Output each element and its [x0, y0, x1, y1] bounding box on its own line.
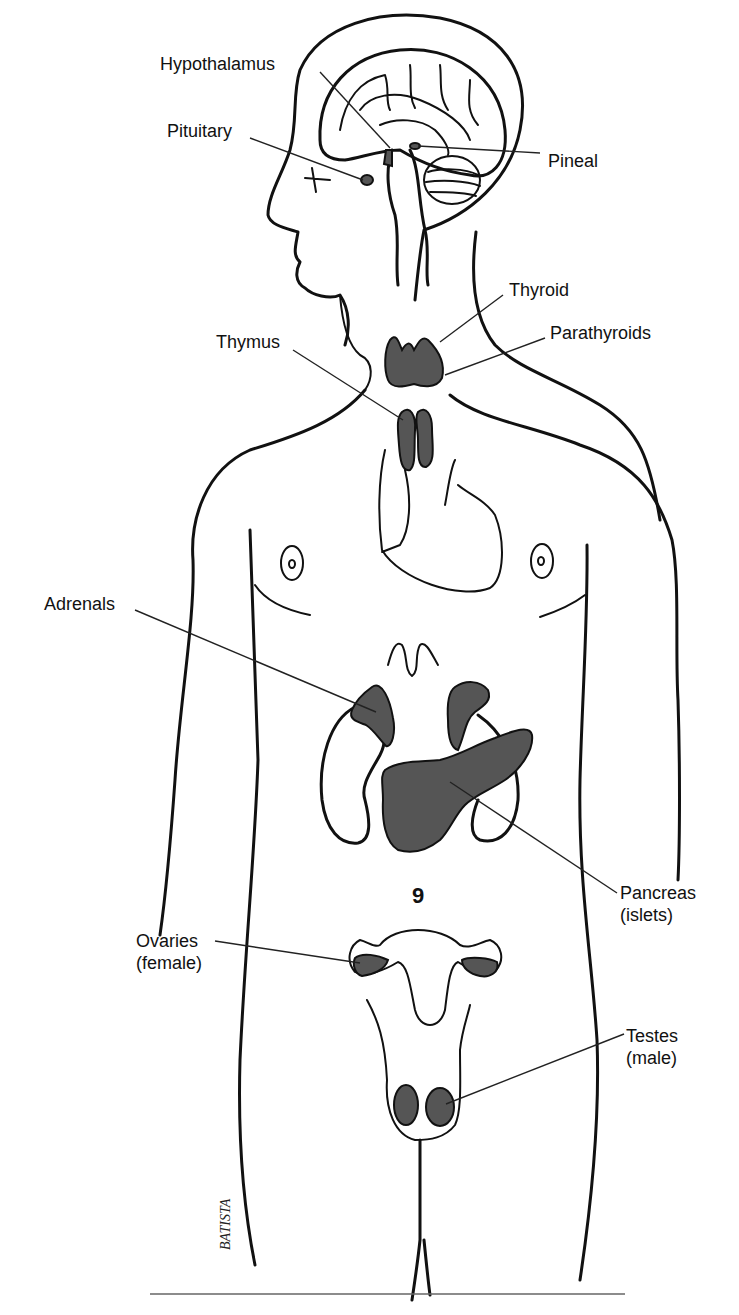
chest-left — [255, 585, 310, 615]
label-ovaries: Ovaries (female) — [136, 930, 202, 974]
leg-divide — [412, 1140, 430, 1300]
inner-right-side — [580, 545, 598, 1280]
scrotum-outline — [367, 1000, 470, 1140]
left-testis — [394, 1085, 418, 1125]
leader-thyroid — [440, 295, 503, 342]
left-nipple — [281, 546, 303, 580]
label-testes-line1: Testes — [626, 1025, 678, 1047]
label-ovaries-line1: Ovaries — [136, 930, 202, 952]
right-ovary — [462, 958, 498, 977]
label-hypothalamus: Hypothalamus — [160, 53, 275, 75]
body-outline-drawing: 9 BATISTA — [0, 0, 739, 1315]
label-testes-line2: (male) — [626, 1047, 678, 1069]
label-pancreas-line1: Pancreas — [620, 882, 696, 904]
thyroid-gland — [385, 337, 443, 386]
xiphoid — [388, 644, 438, 676]
hypothalamus-gland — [384, 150, 392, 166]
chest-right — [540, 595, 585, 617]
label-adrenals: Adrenals — [44, 593, 115, 615]
leader-hypothalamus — [320, 72, 390, 148]
heart-outline — [379, 450, 502, 592]
label-pancreas-line2: (islets) — [620, 904, 696, 926]
brain-folds — [340, 65, 478, 155]
right-nipple-center — [538, 557, 544, 565]
navel-mark: 9 — [412, 883, 424, 908]
right-nipple — [531, 544, 553, 578]
label-ovaries-line2: (female) — [136, 952, 202, 974]
label-thyroid: Thyroid — [509, 279, 569, 301]
right-neck — [474, 232, 660, 520]
right-adrenal-gland — [448, 682, 489, 750]
label-pineal: Pineal — [548, 150, 598, 172]
torso-left — [160, 390, 365, 935]
label-thymus: Thymus — [216, 331, 280, 353]
endocrine-diagram: 9 BATISTA Hypothalamus Pituitary Pineal … — [0, 0, 739, 1315]
label-testes: Testes (male) — [626, 1025, 678, 1069]
label-parathyroids: Parathyroids — [550, 322, 651, 344]
leader-ovaries — [215, 941, 360, 963]
thymus-gland — [398, 410, 433, 471]
brain-stem — [388, 150, 428, 285]
eye-mark — [305, 168, 330, 192]
head-outline — [268, 15, 522, 345]
left-nipple-center — [289, 560, 295, 568]
artist-signature: BATISTA — [218, 1198, 233, 1250]
left-ovary — [354, 955, 388, 976]
label-pancreas: Pancreas (islets) — [620, 882, 696, 926]
left-adrenal-gland — [351, 686, 394, 747]
leader-pineal — [418, 146, 540, 153]
inner-left-side — [240, 530, 258, 1265]
label-pituitary: Pituitary — [167, 120, 232, 142]
torso-right — [450, 395, 680, 880]
right-testis — [426, 1088, 454, 1126]
